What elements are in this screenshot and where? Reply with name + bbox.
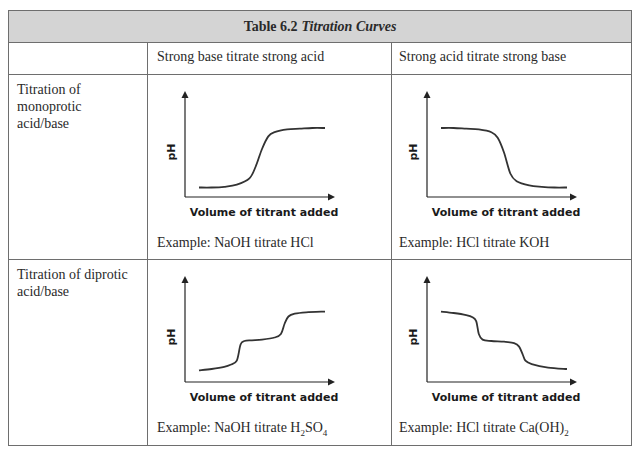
titration-curve (199, 128, 325, 188)
x-axis-arrow-icon (328, 194, 335, 201)
row-label-line: Titration of diprotic (17, 266, 128, 283)
titration-curve (441, 312, 567, 369)
titration-curve-diprotic-base-into-acid: Volume of titrant addedpH (159, 268, 339, 413)
example-text: Example: HCl titrate Ca(OH) (399, 420, 564, 435)
row-label-line: acid/base (17, 283, 128, 300)
example-text: Example: NaOH titrate H (157, 420, 300, 435)
table-caption: Titration Curves (302, 19, 397, 35)
y-axis-arrow-icon (424, 91, 431, 98)
titration-table: Table 6.2 Titration Curves Strong base t… (8, 10, 632, 446)
divider-header (9, 74, 631, 75)
divider-row (9, 259, 631, 260)
example-hcl-caoh2: Example: HCl titrate Ca(OH)2 (399, 420, 569, 438)
y-axis-label: pH (165, 143, 178, 160)
x-axis-arrow-icon (328, 379, 335, 386)
x-axis-label: Volume of titrant added (190, 391, 339, 404)
y-axis-arrow-icon (182, 91, 189, 98)
table-number: Table 6.2 (244, 19, 298, 35)
row-label-line: Titration of (17, 81, 82, 98)
divider-col-1 (147, 42, 148, 445)
table-title: Table 6.2 Titration Curves (9, 11, 631, 43)
titration-curve-monoprotic-acid-into-base: Volume of titrant addedpH (401, 83, 581, 228)
column-header-acid-titrate-base: Strong acid titrate strong base (399, 49, 566, 65)
titration-curve (199, 312, 325, 371)
row-label-monoprotic: Titration of monoprotic acid/base (17, 81, 82, 132)
example-hcl-koh: Example: HCl titrate KOH (399, 235, 549, 251)
column-header-base-titrate-acid: Strong base titrate strong acid (157, 49, 324, 65)
row-label-line: monoprotic (17, 98, 82, 115)
subscript: 2 (564, 428, 569, 438)
example-naoh-h2so4: Example: NaOH titrate H2SO4 (157, 420, 327, 438)
subscript: 4 (323, 428, 328, 438)
titration-curve (441, 128, 567, 188)
x-axis-label: Volume of titrant added (432, 391, 581, 404)
example-text: SO (305, 420, 323, 435)
y-axis-label: pH (407, 328, 420, 345)
x-axis-arrow-icon (570, 379, 577, 386)
y-axis-arrow-icon (424, 276, 431, 283)
divider-col-2 (391, 42, 392, 445)
row-label-diprotic: Titration of diprotic acid/base (17, 266, 128, 300)
x-axis-label: Volume of titrant added (432, 206, 581, 219)
titration-curve-monoprotic-base-into-acid: Volume of titrant addedpH (159, 83, 339, 228)
x-axis-label: Volume of titrant added (190, 206, 339, 219)
x-axis-arrow-icon (570, 194, 577, 201)
example-naoh-hcl: Example: NaOH titrate HCl (157, 235, 314, 251)
titration-curve-diprotic-acid-into-base: Volume of titrant addedpH (401, 268, 581, 413)
row-label-line: acid/base (17, 115, 82, 132)
y-axis-label: pH (407, 143, 420, 160)
y-axis-label: pH (165, 328, 178, 345)
y-axis-arrow-icon (182, 276, 189, 283)
